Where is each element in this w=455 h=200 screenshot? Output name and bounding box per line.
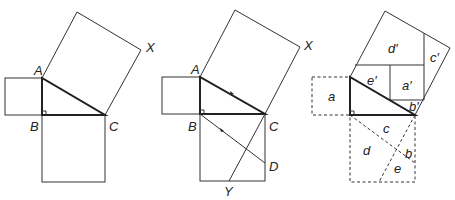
pythagoras-diagram: A B C X A B C X D Y a b c d — [0, 0, 455, 200]
label-y: Y — [224, 184, 234, 199]
square-on-bc — [200, 114, 265, 181]
label-piece-b-prime: b′ — [409, 99, 419, 114]
triangle-abc — [42, 78, 105, 115]
label-x: X — [303, 38, 314, 53]
line-cy — [229, 114, 265, 181]
figure-3: a b c d e a′ b′ c′ d′ e′ — [312, 11, 450, 182]
label-piece-e-prime: e′ — [367, 73, 377, 88]
triangle-abc — [200, 77, 265, 114]
label-b: B — [188, 119, 197, 134]
label-piece-c-prime: c′ — [430, 50, 440, 65]
label-a: A — [33, 63, 43, 78]
label-piece-a: a — [328, 89, 335, 104]
label-c: C — [269, 119, 279, 134]
square-on-ab — [5, 78, 42, 115]
square-on-ac — [200, 10, 300, 114]
label-d: D — [269, 159, 278, 174]
label-piece-d-prime: d′ — [388, 41, 398, 56]
line-bd — [200, 114, 265, 163]
figure-2: A B C X D Y — [162, 10, 314, 199]
label-piece-d: d — [363, 143, 371, 158]
label-piece-a-prime: a′ — [402, 78, 412, 93]
label-piece-c: c — [383, 121, 390, 136]
figure-1: A B C X — [5, 12, 156, 182]
label-b: B — [30, 119, 39, 134]
label-a: A — [190, 62, 200, 77]
label-piece-b: b — [405, 146, 412, 161]
label-c: C — [109, 119, 119, 134]
square-on-ab — [162, 77, 200, 114]
label-x: X — [145, 40, 156, 55]
square-on-ac — [42, 12, 141, 115]
square-on-bc — [42, 115, 105, 182]
label-piece-e: e — [394, 161, 401, 176]
